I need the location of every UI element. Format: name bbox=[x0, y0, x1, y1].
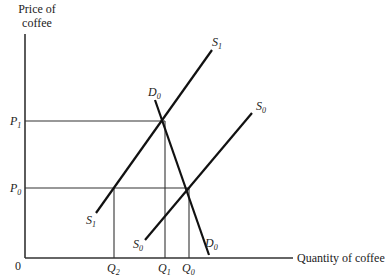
curve-label-s0-top: S0 bbox=[256, 99, 266, 115]
supply-curve-s0 bbox=[145, 113, 252, 240]
supply-demand-diagram: Price of coffee Quantity of coffee 0 P1 … bbox=[0, 0, 385, 278]
demand-curve-d0 bbox=[155, 100, 209, 255]
curve-label-d0-bottom: D0 bbox=[204, 236, 218, 252]
quantity-label-q1: Q1 bbox=[158, 261, 171, 277]
quantity-label-q0: Q0 bbox=[182, 261, 195, 277]
y-axis-label-line1: Price of bbox=[18, 2, 56, 16]
curve-label-d0-top: D0 bbox=[147, 85, 161, 101]
price-label-p1: P1 bbox=[9, 114, 21, 130]
curve-label-s0-bottom: S0 bbox=[133, 237, 143, 253]
quantity-label-q2: Q2 bbox=[107, 261, 120, 277]
y-axis-label-line2: coffee bbox=[22, 16, 52, 30]
curve-label-s1-top: S1 bbox=[212, 35, 222, 51]
origin-label: 0 bbox=[15, 259, 21, 273]
price-label-p0: P0 bbox=[9, 181, 21, 197]
x-axis-label: Quantity of coffee bbox=[297, 251, 385, 265]
curve-label-s1-bottom: S1 bbox=[86, 213, 96, 229]
